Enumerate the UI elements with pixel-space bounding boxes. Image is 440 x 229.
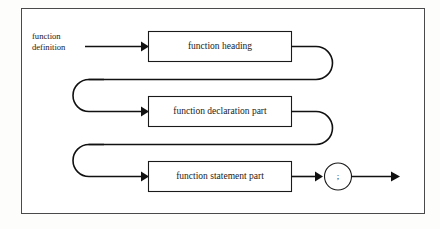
node-function-declaration-part-label: function declaration part (173, 106, 267, 116)
entry-label-line1: function (32, 31, 61, 41)
node-function-statement-part-label: function statement part (176, 171, 264, 181)
semicolon-terminal-label: ; (337, 171, 340, 181)
syntax-diagram: function definition function heading fun… (0, 0, 440, 229)
diagram-canvas: function definition function heading fun… (0, 0, 440, 229)
entry-label-line2: definition (32, 42, 66, 52)
node-function-heading-label: function heading (188, 41, 252, 51)
